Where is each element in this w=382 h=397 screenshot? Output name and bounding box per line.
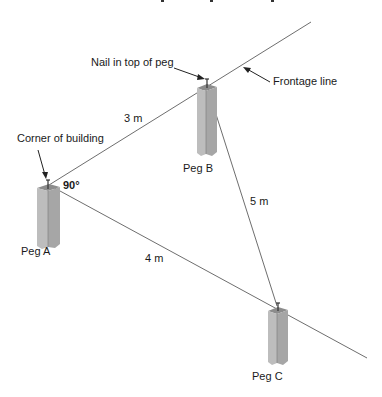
line-a-c <box>49 185 367 358</box>
corner-of-building-label: Corner of building <box>17 133 104 144</box>
peg-c <box>268 303 288 365</box>
nail-label: Nail in top of peg <box>91 57 174 68</box>
peg-a <box>37 180 60 249</box>
side-bc-length: 5 m <box>250 196 268 207</box>
side-ab-length: 3 m <box>124 113 142 124</box>
nail-arrow <box>174 68 205 80</box>
cropped-heading-fragment <box>161 0 274 2</box>
peg-a-label: Peg A <box>21 246 50 257</box>
peg-c-label: Peg C <box>252 371 283 382</box>
frontage-arrow <box>243 67 270 82</box>
peg-b-label: Peg B <box>183 163 213 174</box>
frontage-line <box>49 22 311 185</box>
frontage-line-label: Frontage line <box>273 76 337 87</box>
setting-out-diagram <box>0 0 382 397</box>
side-ac-length: 4 m <box>145 253 163 264</box>
right-angle-label: 90° <box>63 180 80 191</box>
peg-b <box>197 79 217 156</box>
corner-arrow <box>38 150 48 179</box>
